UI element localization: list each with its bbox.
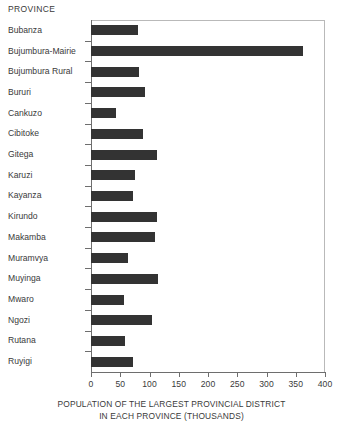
- bar: [91, 274, 158, 284]
- x-axis-tick-mark: [296, 372, 297, 377]
- bar-category-label: Bururi: [8, 87, 31, 97]
- bar: [91, 25, 138, 35]
- bar-row: Rutana: [0, 331, 343, 352]
- bar-category-label: Rutana: [8, 335, 36, 345]
- x-axis-tick-mark: [237, 372, 238, 377]
- x-axis-tick-mark: [150, 372, 151, 377]
- bar-row: Makamba: [0, 227, 343, 248]
- x-axis-tick-mark: [120, 372, 121, 377]
- x-axis-tick-label: 250: [230, 379, 244, 389]
- bar-category-label: Kirundo: [8, 211, 38, 221]
- bar: [91, 315, 152, 325]
- x-axis-title: POPULATION OF THE LARGEST PROVINCIAL DIS…: [0, 398, 343, 422]
- x-axis-tick-mark: [267, 372, 268, 377]
- bar-row: Bururi: [0, 82, 343, 103]
- bar: [91, 232, 155, 242]
- bar: [91, 87, 145, 97]
- bar-category-label: Bujumbura-Mairie: [8, 46, 76, 56]
- bar: [91, 191, 133, 201]
- x-axis-tick-mark: [208, 372, 209, 377]
- bar-row: Ruyigi: [0, 351, 343, 372]
- bar-row: Muyinga: [0, 268, 343, 289]
- x-axis-tick-label: 150: [172, 379, 186, 389]
- bar-row: Ngozi: [0, 310, 343, 331]
- bar: [91, 46, 303, 56]
- bar-row: Kirundo: [0, 206, 343, 227]
- bar-category-label: Mwaro: [8, 294, 34, 304]
- x-axis-tick-label: 200: [201, 379, 215, 389]
- x-axis-tick-label: 0: [89, 379, 94, 389]
- bar-category-label: Bubanza: [8, 25, 42, 35]
- bar: [91, 67, 139, 77]
- bar-category-label: Muramvya: [8, 253, 48, 263]
- x-axis-tick-label: 100: [142, 379, 156, 389]
- bar-category-label: Cibitoke: [8, 128, 39, 138]
- bar-row: Cibitoke: [0, 124, 343, 145]
- bar-chart: PROVINCE BubanzaBujumbura-MairieBujumbur…: [0, 0, 343, 430]
- bar: [91, 150, 157, 160]
- bar-category-label: Makamba: [8, 232, 46, 242]
- x-axis-tick-label: 50: [115, 379, 125, 389]
- bar-row: Bujumbura-Mairie: [0, 41, 343, 62]
- bar-category-label: Ngozi: [8, 315, 30, 325]
- bar: [91, 295, 124, 305]
- bar-row: Kayanza: [0, 186, 343, 207]
- x-axis-title-line-2: IN EACH PROVINCE (THOUSANDS): [0, 410, 343, 422]
- x-axis-tick-label: 400: [318, 379, 332, 389]
- bar-category-label: Kayanza: [8, 190, 41, 200]
- bar: [91, 129, 143, 139]
- bar-category-label: Muyinga: [8, 273, 40, 283]
- bar-category-label: Karuzi: [8, 170, 32, 180]
- x-axis-tick-label: 350: [289, 379, 303, 389]
- bar-row: Karuzi: [0, 165, 343, 186]
- bar-row: Gitega: [0, 144, 343, 165]
- bar-row: Cankuzo: [0, 103, 343, 124]
- x-axis-title-line-1: POPULATION OF THE LARGEST PROVINCIAL DIS…: [0, 398, 343, 410]
- bar-row: Bubanza: [0, 20, 343, 41]
- x-axis-tick-mark: [91, 372, 92, 377]
- x-axis-tick-label: 300: [259, 379, 273, 389]
- bar: [91, 253, 128, 263]
- bar-category-label: Gitega: [8, 149, 33, 159]
- bar: [91, 170, 135, 180]
- bar: [91, 336, 125, 346]
- bar-category-label: Cankuzo: [8, 108, 42, 118]
- bar-category-label: Bujumbura Rural: [8, 66, 72, 76]
- bar: [91, 108, 116, 118]
- bar-row: Mwaro: [0, 289, 343, 310]
- bar: [91, 212, 157, 222]
- bar-category-label: Ruyigi: [8, 356, 32, 366]
- category-axis-title: PROVINCE: [8, 4, 55, 14]
- bar: [91, 357, 133, 367]
- bar-row: Muramvya: [0, 248, 343, 269]
- x-axis-tick-mark: [325, 372, 326, 377]
- bar-row: Bujumbura Rural: [0, 61, 343, 82]
- x-axis-tick-mark: [179, 372, 180, 377]
